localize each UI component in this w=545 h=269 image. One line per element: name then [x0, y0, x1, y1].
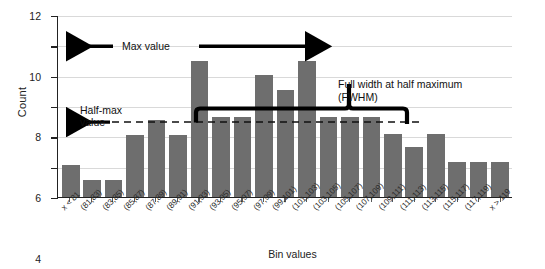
bar-slot: [296, 16, 317, 197]
y-axis-tick-label: 8: [35, 131, 41, 143]
histogram-bar: [191, 61, 209, 197]
histogram-bar: [277, 90, 295, 197]
bar-slot: [124, 16, 145, 197]
bar-slot: [232, 16, 253, 197]
x-label-slot: (87,89): [145, 203, 167, 247]
histogram-bar: [148, 120, 166, 197]
x-label-slot: (115,117): [447, 203, 469, 247]
x-label-slot: (99,101): [274, 203, 296, 247]
x-label-slot: (117,119): [468, 203, 490, 247]
x-label-slot: (107,109): [360, 203, 382, 247]
bar-slot: [103, 16, 124, 197]
histogram-bar: [255, 75, 273, 197]
bar-slot: [167, 16, 188, 197]
x-label-slot: (89,91): [167, 203, 189, 247]
bar-slot: [253, 16, 274, 197]
y-axis-tick: 12: [51, 16, 58, 17]
bar-slot: [468, 16, 489, 197]
histogram-bar: [212, 117, 230, 197]
x-label-slot: (101,103): [296, 203, 318, 247]
bar-slot: [318, 16, 339, 197]
x-label-slot: (83,85): [102, 203, 124, 247]
x-axis-title: Bin values: [0, 248, 545, 260]
y-axis-tick: 4: [51, 137, 58, 138]
x-label-slot: (105,107): [339, 203, 361, 247]
x-label-slot: (81,83): [81, 203, 103, 247]
x-label-slot: x > 119: [490, 203, 512, 247]
x-label-slot: (103,105): [317, 203, 339, 247]
bar-slot: [425, 16, 446, 197]
bar-series: [58, 16, 512, 197]
x-label-slot: (97,99): [253, 203, 275, 247]
x-label-slot: (113,115): [425, 203, 447, 247]
bar-slot: [404, 16, 425, 197]
histogram-figure: Count 024681012 x < 81(81,83)(83,85)(85,…: [0, 0, 545, 269]
x-label-slot: (109,111): [382, 203, 404, 247]
bar-slot: [361, 16, 382, 197]
x-label-slot: (93,95): [210, 203, 232, 247]
y-axis-tick-label: 12: [29, 10, 41, 22]
y-axis-tick-label: 6: [35, 192, 41, 204]
bar-slot: [382, 16, 403, 197]
x-label-slot: (111,113): [404, 203, 426, 247]
bar-slot: [489, 16, 510, 197]
x-axis-tick-labels: x < 81(81,83)(83,85)(85,87)(87,89)(89,91…: [57, 203, 512, 247]
bar-slot: [60, 16, 81, 197]
x-label-slot: (91,93): [188, 203, 210, 247]
y-axis-title: Count: [16, 62, 28, 142]
plot-area: 024681012: [57, 16, 512, 198]
bar-slot: [446, 16, 467, 197]
bar-slot: [339, 16, 360, 197]
y-axis-tick: 6: [51, 107, 58, 108]
x-label-slot: (95,97): [231, 203, 253, 247]
bar-slot: [210, 16, 231, 197]
y-axis-tick-label: 10: [29, 71, 41, 83]
y-axis-tick: 8: [51, 77, 58, 78]
y-axis-tick: 2: [51, 168, 58, 169]
bar-slot: [146, 16, 167, 197]
bar-slot: [189, 16, 210, 197]
bar-slot: [81, 16, 102, 197]
bar-slot: [275, 16, 296, 197]
histogram-bar: [234, 117, 252, 197]
x-label-slot: x < 81: [59, 203, 81, 247]
y-axis-tick: 10: [51, 46, 58, 47]
histogram-bar: [298, 61, 316, 197]
x-label-slot: (85,87): [124, 203, 146, 247]
